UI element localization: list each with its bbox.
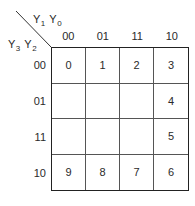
kmap-cell bbox=[52, 119, 86, 155]
kmap-cell: 2 bbox=[120, 48, 154, 84]
kmap-cell: 6 bbox=[154, 155, 188, 191]
row-header-10: 10 bbox=[22, 155, 46, 191]
kmap-cell: 4 bbox=[154, 84, 188, 120]
row-header-00: 00 bbox=[22, 47, 46, 83]
column-header-11: 11 bbox=[120, 30, 155, 42]
column-header-10: 10 bbox=[155, 30, 190, 42]
kmap-cell: 5 bbox=[154, 119, 188, 155]
kmap-cell: 1 bbox=[86, 48, 120, 84]
column-header-01: 01 bbox=[86, 30, 121, 42]
kmap-cell bbox=[120, 84, 154, 120]
kmap-cell bbox=[120, 119, 154, 155]
row-header-11: 11 bbox=[22, 119, 46, 155]
kmap-cell bbox=[86, 119, 120, 155]
column-variable-label: Y1 Y0 bbox=[33, 13, 62, 28]
kmap-cell bbox=[52, 84, 86, 120]
column-header-00: 00 bbox=[51, 30, 86, 42]
kmap-cell: 7 bbox=[120, 155, 154, 191]
kmap-cell: 3 bbox=[154, 48, 188, 84]
kmap-cell: 9 bbox=[52, 155, 86, 191]
kmap-cell: 0 bbox=[52, 48, 86, 84]
kmap-cell: 8 bbox=[86, 155, 120, 191]
kmap-cell bbox=[86, 84, 120, 120]
row-header-01: 01 bbox=[22, 83, 46, 119]
karnaugh-map-grid: 0 1 2 3 4 5 9 8 7 6 bbox=[51, 47, 189, 191]
